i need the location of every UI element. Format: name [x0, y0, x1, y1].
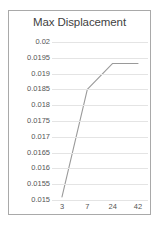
y-tick-label: 0.017: [31, 133, 50, 141]
gridline: [52, 153, 148, 154]
plot-area: [52, 42, 148, 200]
gridline: [52, 58, 148, 59]
gridline: [52, 121, 148, 122]
gridline: [52, 89, 148, 90]
x-tick-label: 24: [108, 203, 116, 211]
gridline: [52, 74, 148, 75]
gridline: [52, 137, 148, 138]
y-axis: 0.020.01950.0190.01850.0180.01750.0170.0…: [9, 42, 50, 200]
y-tick-label: 0.0195: [27, 54, 50, 62]
y-tick-label: 0.0175: [27, 117, 50, 125]
chart-frame: Max Displacement 0.020.01950.0190.01850.…: [8, 10, 151, 215]
x-tick-label: 7: [85, 203, 89, 211]
gridline: [52, 105, 148, 106]
y-tick-label: 0.0165: [27, 149, 50, 157]
series-line-max-displacement: [62, 63, 138, 196]
x-tick-label: 3: [60, 203, 64, 211]
y-tick-label: 0.0185: [27, 86, 50, 94]
gridline: [52, 42, 148, 43]
gridline: [52, 200, 148, 201]
x-tick-label: 42: [134, 203, 142, 211]
y-tick-label: 0.02: [35, 38, 50, 46]
y-tick-label: 0.018: [31, 101, 50, 109]
x-axis: 372442: [52, 203, 148, 215]
gridline: [52, 168, 148, 169]
y-tick-label: 0.016: [31, 165, 50, 173]
gridline: [52, 184, 148, 185]
chart-title: Max Displacement: [9, 16, 150, 28]
y-tick-label: 0.019: [31, 70, 50, 78]
y-tick-label: 0.015: [31, 196, 50, 204]
y-tick-label: 0.0155: [27, 180, 50, 188]
